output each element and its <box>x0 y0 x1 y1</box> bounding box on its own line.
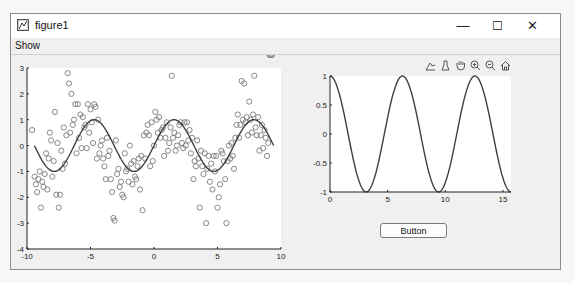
figure-canvas: -10-505103210-1-2-3-4 05101510.50-0.5-1 … <box>11 55 560 269</box>
window-title: figure1 <box>35 19 69 31</box>
y-tick-label: -0.5 <box>313 159 327 168</box>
zoom-in-icon[interactable] <box>469 59 482 72</box>
y-tick-label: 0 <box>20 142 25 151</box>
zoom-out-icon[interactable] <box>484 59 497 72</box>
menu-show[interactable]: Show <box>15 40 40 51</box>
push-button[interactable]: Button <box>380 223 447 238</box>
minimize-button[interactable]: — <box>446 14 480 38</box>
close-button[interactable]: ✕ <box>515 14 549 38</box>
x-tick-label: 0 <box>328 195 333 204</box>
restore-view-icon[interactable] <box>499 59 512 72</box>
matlab-figure-icon <box>17 19 29 31</box>
x-tick-label: 10 <box>441 195 450 204</box>
y-tick-label: 0 <box>323 130 328 139</box>
axes-toolbar <box>424 59 512 73</box>
pan-icon[interactable] <box>454 59 467 72</box>
title-bar[interactable]: figure1 — ☐ ✕ <box>11 14 560 38</box>
data-tips-icon[interactable] <box>424 59 437 72</box>
y-tick-label: -2 <box>17 193 25 202</box>
y-tick-label: 1 <box>20 116 25 125</box>
y-tick-label: -4 <box>17 245 25 254</box>
figure-window: figure1 — ☐ ✕ Show -10-505103210-1-2-3-4… <box>10 13 561 270</box>
scatter-axes[interactable]: -10-505103210-1-2-3-4 <box>11 55 301 269</box>
y-tick-label: -3 <box>17 219 25 228</box>
x-tick-label: -5 <box>87 252 95 261</box>
y-tick-label: 2 <box>20 90 25 99</box>
x-tick-label: 5 <box>385 195 390 204</box>
x-tick-label: 0 <box>152 252 157 261</box>
maximize-button[interactable]: ☐ <box>480 14 514 38</box>
x-tick-label: 10 <box>277 252 286 261</box>
y-tick-label: -1 <box>17 167 25 176</box>
y-tick-label: 0.5 <box>316 101 328 110</box>
y-tick-label: -1 <box>320 188 328 197</box>
brush-icon[interactable] <box>439 59 452 72</box>
x-tick-label: 15 <box>498 195 507 204</box>
y-tick-label: 3 <box>20 64 25 73</box>
x-tick-label: 5 <box>215 252 220 261</box>
menu-bar: Show <box>11 38 560 55</box>
y-tick-label: 1 <box>323 72 328 81</box>
